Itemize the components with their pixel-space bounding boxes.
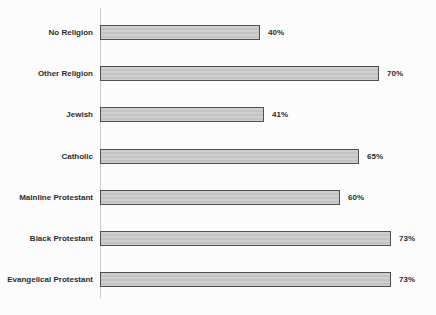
chart-row: Jewish41%: [0, 107, 436, 122]
category-label: Catholic: [0, 149, 93, 164]
value-label: 73%: [399, 231, 415, 246]
chart-row: No Religion40%: [0, 25, 436, 40]
chart-row: Evangelical Protestant73%: [0, 272, 436, 287]
chart-row: Mainline Protestant60%: [0, 190, 436, 205]
bar: [100, 231, 391, 246]
value-label: 60%: [348, 190, 364, 205]
bar: [100, 272, 391, 287]
category-label: Jewish: [0, 107, 93, 122]
chart-row: Catholic65%: [0, 149, 436, 164]
category-label: Other Religion: [0, 66, 93, 81]
chart-row: Other Religion70%: [0, 66, 436, 81]
category-label: Mainline Protestant: [0, 190, 93, 205]
bar: [100, 107, 264, 122]
value-label: 73%: [399, 272, 415, 287]
value-label: 40%: [268, 25, 284, 40]
category-label: Black Protestant: [0, 231, 93, 246]
bar-chart: No Religion40%Other Religion70%Jewish41%…: [0, 0, 436, 315]
chart-row: Black Protestant73%: [0, 231, 436, 246]
bar: [100, 25, 260, 40]
value-label: 70%: [387, 66, 403, 81]
bar: [100, 66, 379, 81]
value-label: 41%: [272, 107, 288, 122]
bar: [100, 149, 359, 164]
category-label: No Religion: [0, 25, 93, 40]
bar: [100, 190, 340, 205]
value-label: 65%: [367, 149, 383, 164]
category-label: Evangelical Protestant: [0, 272, 93, 287]
